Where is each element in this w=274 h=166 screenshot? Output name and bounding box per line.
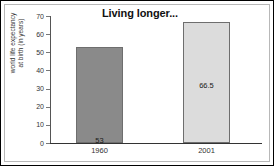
y-tick-label: 10 [26,121,44,128]
y-tick-mark [46,34,50,35]
y-axis-label-line1: world life expectancy [9,13,16,73]
y-tick-mark [46,70,50,71]
y-tick-mark [46,16,50,17]
bar [76,47,123,143]
y-axis-line [50,16,51,144]
inner-border [4,4,270,162]
y-tick-label: 70 [26,13,44,20]
y-tick-label: 60 [26,31,44,38]
y-tick-mark [46,125,50,126]
y-tick-label: 30 [26,85,44,92]
y-tick-label: 0 [26,140,44,147]
chart-title: Living longer... [80,7,200,19]
y-axis-label-line2: at birth (in years) [17,13,25,73]
y-tick-mark [46,107,50,108]
y-tick-mark [46,143,50,144]
y-tick-mark [46,89,50,90]
y-tick-mark [46,52,50,53]
bar-value-label: 66.5 [183,82,230,90]
y-tick-label: 50 [26,49,44,56]
chart-container: Living longer... world life expectancy a… [0,0,274,166]
y-tick-label: 20 [26,103,44,110]
bar-value-label: 53 [76,137,123,145]
x-category-label: 2001 [171,147,242,155]
y-tick-label: 40 [26,67,44,74]
x-category-label: 1960 [64,147,135,155]
